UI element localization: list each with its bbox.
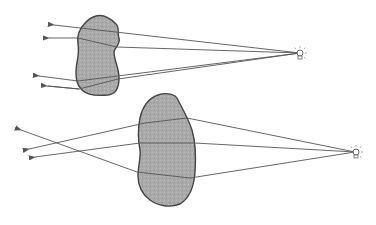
irregular-body-bottom <box>138 94 196 206</box>
irregular-body-top <box>76 16 119 96</box>
top-panel <box>39 16 307 96</box>
ray <box>48 86 79 89</box>
ray-diagram <box>0 0 376 225</box>
bottom-panel <box>21 94 363 206</box>
